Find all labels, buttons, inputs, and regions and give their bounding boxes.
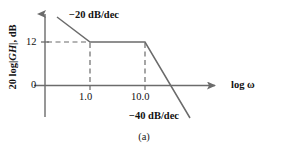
y-axis-label: 20 log|GH|, dB <box>2 16 22 98</box>
x-tick-label-10: 10.0 <box>131 92 149 103</box>
bode-plot-figure: 20 log|GH|, dB 12 0 1.0 10.0 log ω −20 d… <box>0 0 288 151</box>
y-tick-label-0: 0 <box>31 80 36 91</box>
y-axis-label-prefix: 20 log| <box>7 61 18 90</box>
x-tick-label-1: 1.0 <box>79 92 92 103</box>
bode-plot-canvas <box>0 0 288 151</box>
annotation-slope-minus-20: −20 dB/dec <box>69 10 119 21</box>
figure-caption: (a) <box>0 131 288 142</box>
y-axis-label-text: 20 log|GH|, dB <box>7 24 18 89</box>
y-tick-label-12: 12 <box>26 37 37 48</box>
annotation-slope-minus-40: −40 dB/dec <box>129 111 179 122</box>
y-axis-label-suffix: |, dB <box>7 24 18 44</box>
x-axis-label: log ω <box>231 80 255 91</box>
magnitude-asymptote-curve <box>57 17 190 118</box>
y-axis-label-variable: GH <box>7 45 18 61</box>
